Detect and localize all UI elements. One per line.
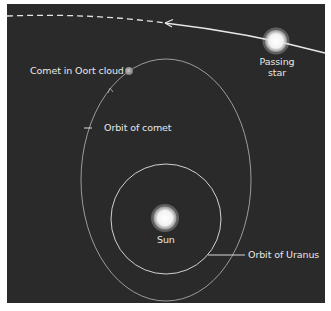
star-path-dashed [7,15,165,23]
passing-star [265,30,287,52]
comet-direction-icon [108,88,113,93]
sun [154,207,177,230]
label-passing-star: Passing star [256,56,298,78]
comet [125,67,133,75]
orbit-diagram [0,0,331,311]
label-orbit-of-comet: Orbit of comet [104,122,171,133]
label-comet-in-oort-cloud: Comet in Oort cloud [30,65,124,76]
label-orbit-of-uranus: Orbit of Uranus [248,249,319,260]
label-passing-star-line2: star [256,67,298,78]
comet-orbit [81,59,251,301]
label-passing-star-line1: Passing [256,56,298,67]
star-path-solid [165,23,325,53]
label-sun: Sun [157,234,175,245]
